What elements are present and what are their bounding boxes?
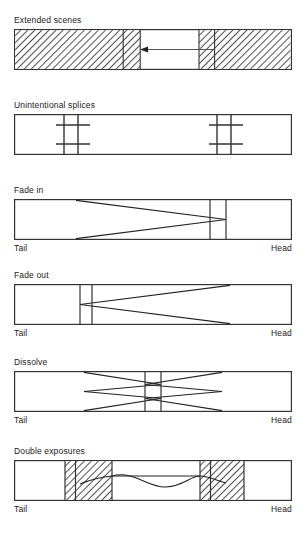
end-labels-double-exposures: Tail Head bbox=[14, 503, 292, 516]
head-label: Head bbox=[271, 242, 292, 254]
head-label: Head bbox=[271, 503, 292, 515]
hatched-edge-head-outer bbox=[200, 461, 210, 500]
strip-graphic-dissolve bbox=[14, 371, 292, 412]
tail-label: Tail bbox=[14, 327, 27, 339]
strip-dissolve bbox=[14, 371, 292, 412]
strip-graphic-fade-out bbox=[14, 284, 292, 325]
panel-title-fade-in: Fade in bbox=[14, 185, 292, 196]
panel-fade-out: Fade out Tail Head bbox=[14, 270, 292, 340]
end-labels-fade-out: Tail Head bbox=[14, 327, 292, 340]
panel-title-dissolve: Dissolve bbox=[14, 357, 292, 368]
strip-outline bbox=[15, 115, 292, 155]
strip-graphic-unintentional-splices bbox=[14, 114, 292, 155]
panel-title-double-exposures: Double exposures bbox=[14, 446, 292, 457]
panel-title-extended-scenes: Extended scenes bbox=[14, 15, 292, 26]
strip-graphic-fade-in bbox=[14, 199, 292, 240]
panel-unintentional-splices: Unintentional splices bbox=[14, 100, 292, 155]
panel-title-unintentional-splices: Unintentional splices bbox=[14, 100, 292, 111]
hatched-block-head bbox=[211, 461, 244, 500]
panel-title-fade-out: Fade out bbox=[14, 270, 292, 281]
strip-extended-scenes bbox=[14, 29, 292, 70]
end-labels-dissolve: Tail Head bbox=[14, 414, 292, 427]
strip-outline bbox=[15, 461, 292, 501]
strip-unintentional-splices bbox=[14, 114, 292, 155]
strip-graphic-double-exposures bbox=[14, 460, 292, 501]
strip-double-exposures bbox=[14, 460, 292, 501]
hatched-block-tail bbox=[76, 461, 112, 500]
tail-label: Tail bbox=[14, 503, 27, 515]
strip-fade-in bbox=[14, 199, 292, 240]
strip-outline bbox=[15, 285, 292, 325]
strip-outline bbox=[15, 200, 292, 240]
panel-double-exposures: Double exposures Tail Head bbox=[14, 446, 292, 516]
strip-outline bbox=[15, 372, 292, 412]
hatched-block-tail-edge bbox=[123, 30, 140, 69]
panel-dissolve: Dissolve Tail Head bbox=[14, 357, 292, 427]
hatched-block-head bbox=[215, 30, 290, 69]
strip-graphic-extended-scenes bbox=[14, 29, 292, 70]
tail-label: Tail bbox=[14, 414, 27, 426]
panel-fade-in: Fade in Tail Head bbox=[14, 185, 292, 255]
panel-extended-scenes: Extended scenes bbox=[14, 15, 292, 70]
end-labels-fade-in: Tail Head bbox=[14, 242, 292, 255]
head-label: Head bbox=[271, 327, 292, 339]
hatched-block-tail bbox=[15, 30, 123, 69]
head-label: Head bbox=[271, 414, 292, 426]
hatched-edge-tail-outer bbox=[65, 461, 75, 500]
strip-fade-out bbox=[14, 284, 292, 325]
tail-label: Tail bbox=[14, 242, 27, 254]
figure-page: Extended scenes Unintentional splices bbox=[0, 0, 306, 543]
